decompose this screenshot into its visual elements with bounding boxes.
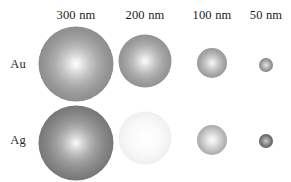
sphere-ag-300nm xyxy=(39,106,114,181)
nanoparticle-size-figure: 300 nm 200 nm 100 nm 50 nm Au Ag xyxy=(0,0,291,182)
column-header-100nm: 100 nm xyxy=(192,8,231,22)
sphere-ag-100nm xyxy=(197,125,227,155)
column-header-50nm: 50 nm xyxy=(250,8,283,22)
sphere-au-50nm xyxy=(259,58,273,72)
sphere-au-200nm xyxy=(119,35,172,88)
column-header-300nm: 300 nm xyxy=(56,8,95,22)
sphere-au-300nm xyxy=(39,27,114,102)
sphere-ag-200nm xyxy=(119,112,172,165)
sphere-au-100nm xyxy=(197,48,227,78)
sphere-ag-50nm xyxy=(259,134,273,148)
row-label-au: Au xyxy=(10,57,26,72)
column-header-200nm: 200 nm xyxy=(125,8,164,22)
row-label-ag: Ag xyxy=(10,133,26,148)
